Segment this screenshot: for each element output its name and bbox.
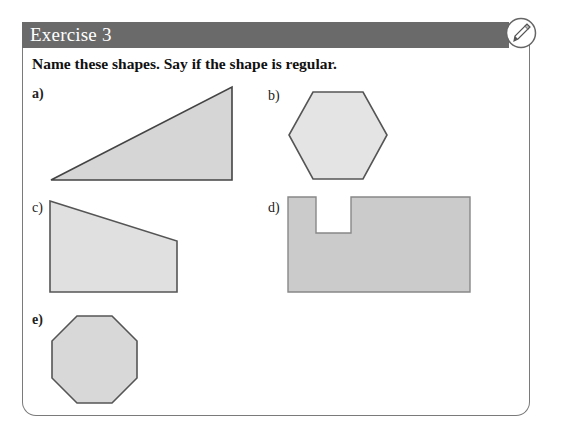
shape-notched-rectangle xyxy=(288,197,470,292)
shape-triangle xyxy=(51,87,232,180)
shape-trapezium xyxy=(50,201,177,292)
shape-octagon xyxy=(52,316,137,403)
shapes-canvas xyxy=(0,0,561,435)
shape-hexagon xyxy=(289,92,387,179)
